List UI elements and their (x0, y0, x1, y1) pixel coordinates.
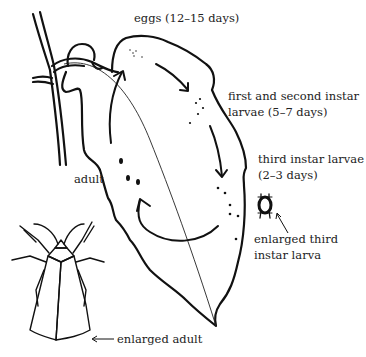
adult-pointer-arrow (92, 336, 114, 342)
label-adult: adult (74, 172, 104, 187)
third-instar-dots (217, 187, 240, 241)
label-enlarged-adult: enlarged adult (117, 332, 202, 347)
life-cycle-diagram: eggs (12–15 days) first and second insta… (0, 0, 366, 357)
leaf-outline (100, 36, 246, 326)
enlarged-adult-icon (12, 222, 104, 340)
egg-dots (129, 49, 143, 58)
label-enlarged-larva-line2: instar larva (254, 248, 321, 263)
leaf-midrib (64, 63, 216, 326)
adult-bugs-on-leaf (119, 158, 140, 185)
cycle-arrows (110, 64, 227, 241)
label-eggs: eggs (12–15 days) (134, 11, 239, 26)
label-third-instar-line2: (2–3 days) (258, 168, 318, 183)
enlarged-larva-icon (258, 194, 272, 218)
label-third-instar-line1: third instar larvae (258, 152, 364, 167)
label-enlarged-larva-line1: enlarged third (254, 232, 338, 247)
plant-stem (33, 12, 118, 170)
label-first-second-instar-line1: first and second instar (228, 89, 359, 104)
first-second-instar-dots (189, 98, 204, 124)
label-first-second-instar-line2: larvae (5–7 days) (228, 105, 327, 120)
larva-pointer-arrow (276, 213, 288, 233)
